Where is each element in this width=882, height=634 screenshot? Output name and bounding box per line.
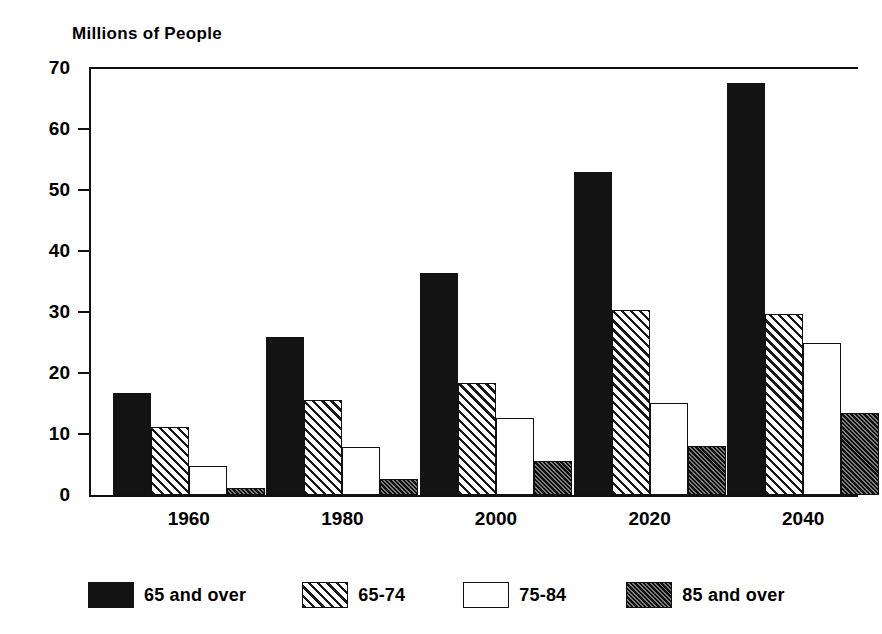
bar-1980-75-84 — [342, 447, 380, 495]
x-axis-line — [89, 495, 858, 497]
bar-2040-85-and-over — [841, 413, 879, 495]
y-axis-tick-label: 70 — [12, 58, 70, 77]
bar-2000-65-and-over — [420, 273, 458, 495]
bar-2020-85-and-over — [688, 446, 726, 495]
y-axis-tick — [78, 311, 90, 313]
bar-2000-65-74 — [458, 383, 496, 495]
legend-label: 75-84 — [519, 585, 566, 606]
y-axis-tick — [78, 433, 90, 435]
bar-2000-75-84 — [496, 418, 534, 495]
legend-label: 85 and over — [682, 585, 784, 606]
y-axis-tick — [78, 250, 90, 252]
legend-swatch-icon — [626, 582, 672, 608]
bar-chart: Millions of People 010203040506070 19601… — [0, 0, 882, 634]
legend-item-85-and-over[interactable]: 85 and over — [626, 582, 784, 608]
legend-label: 65-74 — [358, 585, 405, 606]
bar-1960-65-74 — [151, 427, 189, 495]
legend-swatch-icon — [463, 582, 509, 608]
chart-title: Millions of People — [72, 24, 222, 44]
bar-2020-65-and-over — [574, 172, 612, 495]
bar-2020-75-84 — [650, 403, 688, 495]
legend-item-65-74[interactable]: 65-74 — [302, 582, 405, 608]
y-axis-tick-label: 60 — [12, 119, 70, 138]
x-axis-tick-label: 2040 — [707, 508, 882, 530]
y-axis-tick-label: 50 — [12, 180, 70, 199]
chart-legend: 65 and over65-7475-8485 and over — [88, 578, 785, 612]
bar-2020-65-74 — [612, 310, 650, 495]
legend-swatch-icon — [302, 582, 348, 608]
y-axis-tick-label: 40 — [12, 241, 70, 260]
bar-1980-65-and-over — [266, 337, 304, 495]
legend-swatch-icon — [88, 582, 134, 608]
bar-1980-65-74 — [304, 400, 342, 495]
legend-label: 65 and over — [144, 585, 246, 606]
y-axis-tick — [78, 372, 90, 374]
y-axis-tick — [78, 189, 90, 191]
y-axis-tick — [78, 128, 90, 130]
legend-item-65-and-over[interactable]: 65 and over — [88, 582, 246, 608]
bar-1960-75-84 — [189, 466, 227, 495]
y-axis-tick-label: 10 — [12, 424, 70, 443]
bar-2040-65-74 — [765, 314, 803, 495]
bar-2040-65-and-over — [727, 83, 765, 495]
plot-area — [90, 68, 858, 495]
y-axis-tick-label: 20 — [12, 363, 70, 382]
bar-1960-85-and-over — [227, 488, 265, 495]
bar-1960-65-and-over — [113, 393, 151, 495]
y-axis-tick-label: 30 — [12, 302, 70, 321]
bar-2040-75-84 — [803, 343, 841, 495]
bar-2000-85-and-over — [534, 461, 572, 495]
y-axis-tick-label: 0 — [12, 485, 70, 504]
legend-item-75-84[interactable]: 75-84 — [463, 582, 566, 608]
bar-1980-85-and-over — [380, 479, 418, 495]
